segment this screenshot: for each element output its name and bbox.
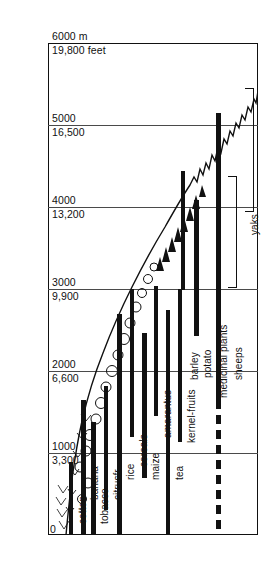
series-label-sheeps: sheeps [234, 347, 244, 380]
tick-label-meters: 2000 [52, 359, 76, 370]
series-label-tea: tea [175, 466, 185, 480]
range-bar-barley[interactable] [181, 171, 185, 290]
tick-label-feet: 16,500 [52, 127, 85, 138]
range-bar-cereals[interactable] [130, 289, 134, 437]
elevation-zonation-figure: Altitudinal zonation of crops and livest… [0, 0, 276, 562]
tick-label-meters: 0 [50, 524, 56, 535]
range-bar-amarantus[interactable] [154, 286, 158, 416]
range-bar-potato[interactable] [194, 200, 199, 336]
range-bar-dashed-medicinal-plants[interactable] [216, 400, 221, 535]
tick-label-feet: 19,800 feet [52, 45, 106, 56]
series-label-yaks: yaks [250, 214, 260, 235]
series-label-medicinal-plants: medicinal plants [219, 325, 229, 398]
series-label-cereals: cereals [139, 434, 149, 467]
series-label-rice: rice [126, 463, 136, 480]
series-label-barley: barley [190, 352, 200, 380]
range-bar-rice[interactable] [117, 314, 122, 535]
range-bracket-yaks[interactable] [245, 88, 254, 212]
series-label-amarantus: amarantus [163, 390, 173, 438]
tick-label-meters: 1000 [52, 441, 76, 452]
tick-label-meters: 5000 [52, 113, 76, 124]
series-label-citrusfr-: citrusfr. [113, 467, 123, 500]
tick-label-meters: 6000 m [52, 31, 88, 42]
range-bar-cotton[interactable] [69, 462, 73, 535]
range-bar-kernel-fruits[interactable] [178, 289, 182, 442]
series-label-kernel-fruits: kernel-fruits [187, 389, 197, 443]
tick-label-meters: 3000 [52, 277, 76, 288]
range-bracket-sheeps[interactable] [228, 176, 237, 288]
series-label-maize: maize [151, 453, 161, 480]
tick-label-feet: 13,200 [52, 209, 85, 220]
tick-label-feet: 3,300 [52, 455, 79, 466]
series-label-potato: potato [203, 350, 213, 378]
series-label-cotton: cotton [78, 496, 88, 524]
series-label-tobacco: tobacco [100, 488, 110, 524]
tick-label-feet: 6,600 [52, 373, 79, 384]
tick-label-feet: 9,900 [52, 291, 79, 302]
tick-label-meters: 4000 [52, 195, 76, 206]
gridline-3000 [48, 289, 258, 290]
